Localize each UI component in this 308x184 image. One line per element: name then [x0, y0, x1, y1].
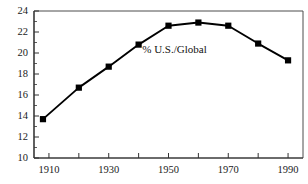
series-annotation-layer: % U.S./Global — [142, 43, 206, 55]
y-tick-label: 14 — [18, 110, 29, 121]
data-point-marker — [225, 23, 231, 29]
data-point-marker — [285, 57, 291, 63]
chart-background — [0, 0, 308, 184]
y-tick-label: 12 — [18, 131, 29, 142]
data-point-marker — [195, 19, 201, 25]
y-tick-label: 18 — [18, 68, 29, 79]
data-point-marker — [136, 42, 142, 48]
y-tick-label: 20 — [18, 47, 29, 58]
x-tick-label: 1950 — [158, 164, 179, 175]
x-tick-label: 1970 — [218, 164, 239, 175]
x-tick-label: 1910 — [38, 164, 59, 175]
data-point-marker — [165, 23, 171, 29]
data-point-marker — [76, 85, 82, 91]
data-point-marker — [40, 116, 46, 122]
y-tick-label: 22 — [18, 26, 29, 37]
y-tick-label: 10 — [18, 152, 29, 163]
data-point-marker — [106, 64, 112, 70]
chart-figure: 1012141618202224 19101930195019701990 % … — [0, 0, 308, 184]
series-label: % U.S./Global — [142, 43, 206, 55]
x-tick-label: 1990 — [278, 164, 299, 175]
x-tick-label: 1930 — [98, 164, 119, 175]
line-chart: 1012141618202224 19101930195019701990 % … — [0, 0, 308, 184]
y-tick-label: 16 — [18, 89, 29, 100]
y-tick-label: 24 — [18, 5, 29, 16]
data-point-marker — [255, 40, 261, 46]
